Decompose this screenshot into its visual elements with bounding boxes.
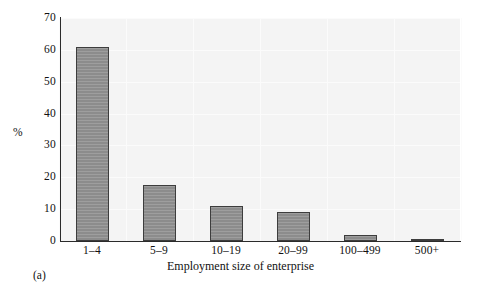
bar-texture	[77, 48, 108, 240]
gridline-horizontal	[61, 82, 460, 83]
x-axis-tick-label: 20–99	[278, 244, 308, 257]
bar	[143, 185, 176, 241]
bar-texture	[144, 186, 175, 240]
x-axis-tick-label: 5–9	[150, 244, 168, 257]
gridline-vertical	[126, 18, 127, 241]
bar	[210, 206, 243, 241]
x-axis-tick-label: 100–499	[339, 244, 381, 257]
y-axis-title: %	[13, 126, 23, 138]
gridline-horizontal	[61, 114, 460, 115]
x-axis-tick-label: 1–4	[83, 244, 101, 257]
x-axis-tick-label: 10–19	[211, 244, 241, 257]
bar	[76, 47, 109, 241]
gridline-vertical	[394, 18, 395, 241]
y-axis-tick-label: 20	[12, 171, 56, 183]
bar-chart-figure: 010203040506070 % 1–45–910–1920–99100–49…	[0, 0, 481, 296]
y-axis-tick-label: 10	[12, 203, 56, 215]
bar-texture	[345, 236, 376, 240]
y-axis-tick-label: 50	[12, 76, 56, 88]
y-axis-line	[60, 17, 61, 242]
gridline-vertical	[193, 18, 194, 241]
bar	[277, 212, 310, 241]
gridline-vertical	[327, 18, 328, 241]
y-axis-tick-label: 30	[12, 139, 56, 151]
gridline-horizontal	[61, 177, 460, 178]
y-axis-tick-label: 0	[12, 235, 56, 247]
bar-texture	[211, 207, 242, 240]
y-axis-tick-label: 40	[12, 108, 56, 120]
gridlines	[61, 18, 460, 241]
plot-area	[61, 18, 460, 241]
panel-caption: (a)	[33, 269, 46, 282]
gridline-vertical	[461, 18, 462, 241]
x-axis-tick-labels: 1–45–910–1920–99100–499500+	[61, 244, 460, 260]
gridline-horizontal	[61, 18, 460, 19]
gridline-horizontal	[61, 209, 460, 210]
x-axis-title: Employment size of enterprise	[0, 259, 481, 273]
bar-texture	[278, 213, 309, 240]
y-axis-tick-labels: 010203040506070	[8, 0, 56, 296]
x-axis-line	[60, 241, 461, 242]
gridline-horizontal	[61, 145, 460, 146]
gridline-vertical	[260, 18, 261, 241]
y-axis-tick-label: 60	[12, 44, 56, 56]
gridline-horizontal	[61, 50, 460, 51]
y-axis-tick-label: 70	[12, 12, 56, 24]
x-axis-tick-label: 500+	[415, 244, 440, 257]
